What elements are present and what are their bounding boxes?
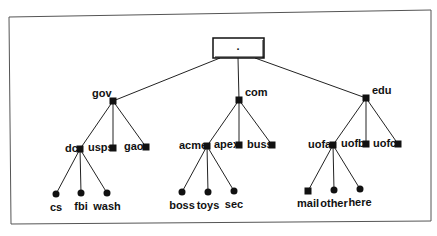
node-label: toys: [197, 199, 220, 211]
circle-leaf-icon: [179, 189, 186, 196]
node-label: boss: [169, 199, 195, 211]
node-label: com: [245, 86, 268, 98]
square-node-icon: [305, 188, 312, 195]
square-node-icon: [363, 95, 370, 102]
node-label: mail: [297, 197, 319, 209]
node-label: sec: [225, 198, 243, 210]
node-buss: buss: [247, 138, 276, 150]
node-label: usps: [88, 141, 114, 153]
node-label: uofc: [373, 137, 396, 149]
node-label: cs: [50, 201, 62, 213]
node-label: gov: [92, 87, 112, 99]
node-label: buss: [247, 138, 273, 150]
circle-leaf-icon: [331, 187, 338, 194]
dns-tree-diagram: . govcomedudcuspsgaoacmeapexbussuofauofb…: [0, 0, 437, 236]
circle-leaf-icon: [205, 189, 212, 196]
node-apex: apex: [214, 138, 243, 150]
square-node-icon: [236, 97, 243, 104]
node-label: uofa: [308, 138, 332, 150]
node-label: other: [320, 197, 348, 209]
node-label: dc: [65, 142, 78, 154]
node-acme: acme: [179, 139, 211, 151]
circle-leaf-icon: [104, 190, 111, 197]
node-label: gao: [124, 140, 144, 152]
circle-leaf-icon: [53, 191, 60, 198]
node-label: uofb: [341, 137, 365, 149]
circle-leaf-icon: [231, 188, 238, 195]
node-label: edu: [372, 84, 392, 96]
node-label: fbi: [74, 200, 87, 212]
root-node: .: [213, 38, 264, 58]
node-label: here: [348, 196, 371, 208]
node-label: apex: [214, 138, 240, 150]
node-label: wash: [92, 200, 121, 212]
circle-leaf-icon: [357, 186, 364, 193]
root-label: .: [236, 40, 239, 52]
node-usps: usps: [88, 141, 117, 153]
node-label: acme: [179, 139, 207, 151]
circle-leaf-icon: [78, 190, 85, 197]
